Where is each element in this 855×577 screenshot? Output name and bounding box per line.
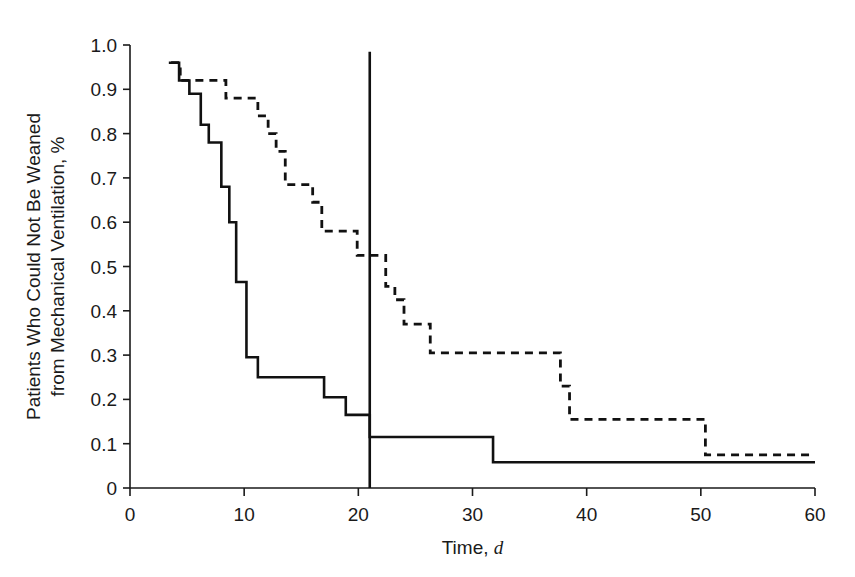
y-tick-label-9: 0.9 bbox=[91, 79, 117, 100]
y-tick-label-4: 0.4 bbox=[91, 301, 118, 322]
x-tick-label-1: 10 bbox=[234, 504, 255, 525]
x-tick-label-4: 40 bbox=[576, 504, 597, 525]
y-axis-title-line-1: Patients Who Could Not Be Weaned bbox=[23, 113, 44, 420]
chart-canvas: 00.10.20.30.40.50.60.70.80.91.0010203040… bbox=[0, 0, 855, 577]
y-tick-label-8: 0.8 bbox=[91, 124, 117, 145]
x-tick-label-0: 0 bbox=[125, 504, 136, 525]
y-axis-title-line-2: from Mechanical Ventilation, % bbox=[47, 136, 68, 396]
y-tick-label-5: 0.5 bbox=[91, 257, 117, 278]
y-tick-label-6: 0.6 bbox=[91, 212, 117, 233]
y-tick-label-3: 0.3 bbox=[91, 345, 117, 366]
x-tick-label-3: 30 bbox=[462, 504, 483, 525]
x-tick-label-6: 60 bbox=[804, 504, 825, 525]
x-tick-label-5: 50 bbox=[690, 504, 711, 525]
y-tick-label-10: 1.0 bbox=[91, 35, 117, 56]
x-axis-title-main: Time, bbox=[442, 537, 494, 558]
y-tick-label-0: 0 bbox=[106, 478, 117, 499]
y-tick-label-2: 0.2 bbox=[91, 389, 117, 410]
kaplan-meier-figure: 00.10.20.30.40.50.60.70.80.91.0010203040… bbox=[0, 0, 855, 577]
x-tick-label-2: 20 bbox=[348, 504, 369, 525]
y-tick-label-1: 0.1 bbox=[91, 434, 117, 455]
series-dashed-curve bbox=[171, 63, 815, 455]
x-axis-title: Time, d bbox=[442, 537, 504, 558]
x-axis-title-unit: d bbox=[494, 537, 504, 558]
series-solid-curve bbox=[169, 63, 815, 463]
y-tick-label-7: 0.7 bbox=[91, 168, 117, 189]
